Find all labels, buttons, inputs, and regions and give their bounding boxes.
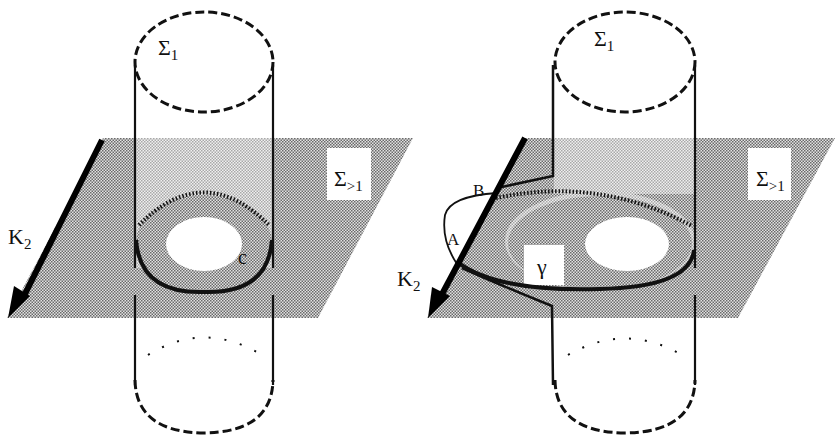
cylinder-bottom-back-right — [568, 339, 682, 356]
cylinder-top — [135, 12, 273, 112]
disk-hole — [166, 217, 242, 271]
point-a-label: A — [447, 230, 460, 249]
sigma1-label-right: Σ1 — [594, 26, 614, 54]
left-panel: Σ1 Σ>1 K2 c — [7, 12, 413, 433]
curve-c-label: c — [238, 246, 247, 268]
disk-hole-right — [585, 217, 669, 271]
cylinder-bottom-back — [148, 338, 262, 356]
k2-label-right: K2 — [397, 266, 420, 294]
point-b-label: B — [473, 181, 484, 200]
cylinder-bottom-right — [555, 380, 695, 433]
k2-label: K2 — [8, 224, 31, 252]
sigma1-label: Σ1 — [158, 35, 178, 63]
curve-gamma-label: γ — [536, 254, 547, 279]
cylinder-bottom — [135, 380, 273, 433]
cylinder-interior-shade-right — [554, 138, 695, 194]
figure-canvas: Σ1 Σ>1 K2 c — [0, 0, 839, 445]
right-panel: Σ1 Σ>1 K2 B A γ — [397, 12, 835, 433]
cylinder-top-right — [555, 12, 695, 112]
